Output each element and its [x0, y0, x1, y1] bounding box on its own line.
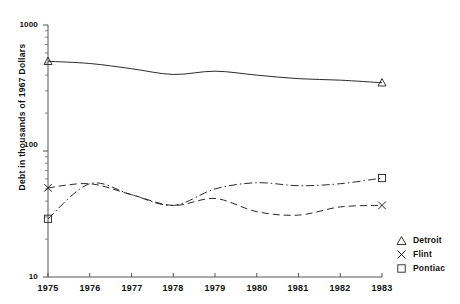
x-marker	[378, 202, 386, 210]
legend-item-detroit: Detroit	[396, 233, 458, 247]
plot-area	[0, 0, 460, 304]
legend-label-flint: Flint	[413, 249, 432, 259]
series-detroit	[44, 57, 386, 86]
x-marker-icon	[396, 249, 407, 260]
axis-lines	[48, 25, 382, 277]
legend-item-pontiac: Pontiac	[396, 261, 458, 275]
chart-legend: Detroit Flint Pontiac	[396, 233, 458, 275]
series-flint	[44, 184, 386, 216]
square-marker-icon	[396, 263, 407, 274]
legend-item-flint: Flint	[396, 247, 458, 261]
y-axis-ticks	[43, 25, 48, 277]
x-axis-ticks	[48, 273, 382, 277]
data-series-layer	[44, 57, 386, 222]
legend-label-pontiac: Pontiac	[413, 263, 445, 273]
chart-figure: Debt in thousands of 1967 Dollars 1000 1…	[0, 0, 460, 304]
triangle-marker-icon	[396, 235, 407, 246]
legend-label-detroit: Detroit	[413, 235, 442, 245]
